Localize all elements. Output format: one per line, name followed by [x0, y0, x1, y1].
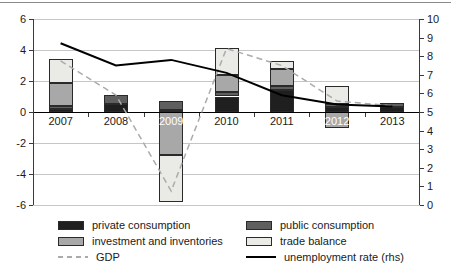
- left-axis-tick-label: -6: [0, 199, 26, 212]
- gridline: [33, 143, 420, 144]
- legend-label-public-consumption: public consumption: [280, 219, 374, 231]
- left-axis-tick-label: -4: [0, 168, 26, 181]
- x-tick-label: 2009: [154, 115, 188, 127]
- bar-segment-trade-balance: [215, 48, 239, 74]
- bar-segment-trade-balance: [159, 155, 183, 202]
- gridline: [33, 19, 420, 20]
- x-tick-label: 2007: [44, 115, 78, 127]
- bar-segment-trade-balance: [325, 86, 349, 105]
- legend-row: investment and inventories trade balance: [58, 233, 430, 249]
- bar-segment-private-consumption: [215, 97, 239, 113]
- right-axis-tick-mark: [420, 38, 424, 39]
- right-axis-tick-mark: [420, 205, 424, 206]
- right-axis-tick-mark: [420, 56, 424, 57]
- gdp-dashed-line-marker: [58, 256, 88, 258]
- bar-segment-public-consumption: [380, 103, 404, 108]
- right-axis-tick-label: 2: [427, 162, 451, 175]
- x-tick-label: 2011: [265, 115, 299, 127]
- right-axis-tick-mark: [420, 19, 424, 20]
- chart-figure: 2007200820092010201120122013 private con…: [0, 0, 451, 264]
- legend-label-trade-balance: trade balance: [280, 235, 347, 247]
- right-axis-tick-label: 8: [427, 50, 451, 63]
- legend-item-gdp: GDP: [58, 251, 246, 263]
- bar-segment-private-consumption: [104, 104, 128, 112]
- legend-label-private-consumption: private consumption: [92, 219, 190, 231]
- right-axis-tick-label: 7: [427, 69, 451, 82]
- investment-swatch: [58, 237, 84, 246]
- legend-label-unemployment: unemployment rate (rhs): [284, 251, 404, 263]
- legend-item-public-consumption: public consumption: [246, 219, 374, 231]
- legend-item-private-consumption: private consumption: [58, 219, 246, 231]
- bar-segment-public-consumption: [104, 95, 128, 104]
- right-axis-tick-label: 3: [427, 143, 451, 156]
- unemployment-line-marker: [246, 256, 276, 258]
- legend: private consumption public consumption i…: [58, 217, 430, 264]
- legend-item-trade-balance: trade balance: [246, 235, 347, 247]
- x-tick-label: 2008: [99, 115, 133, 127]
- x-tick-label: 2010: [210, 115, 244, 127]
- right-axis-tick-label: 4: [427, 125, 451, 138]
- right-axis-tick-label: 5: [427, 106, 451, 119]
- right-axis-tick-label: 1: [427, 180, 451, 193]
- private-consumption-swatch: [58, 221, 84, 230]
- right-axis-tick-label: 6: [427, 87, 451, 100]
- top-rule: [0, 2, 451, 3]
- gridline: [33, 174, 420, 175]
- legend-row: private consumption public consumption: [58, 217, 430, 233]
- right-axis-tick-label: 10: [427, 13, 451, 26]
- bar-segment-investment-and-inventories: [270, 69, 294, 86]
- bar-segment-public-consumption: [270, 86, 294, 91]
- left-axis-tick-label: 4: [0, 44, 26, 57]
- right-axis-tick-mark: [420, 75, 424, 76]
- bar-segment-public-consumption: [215, 92, 239, 97]
- x-tick-label: 2013: [375, 115, 409, 127]
- right-axis-tick-mark: [420, 93, 424, 94]
- trade-balance-swatch: [246, 237, 272, 246]
- bar-segment-public-consumption: [159, 101, 183, 110]
- right-axis-tick-mark: [420, 112, 424, 113]
- right-axis-tick-mark: [420, 168, 424, 169]
- right-axis-line: [419, 19, 420, 205]
- legend-label-investment: investment and inventories: [92, 235, 223, 247]
- bar-segment-investment-and-inventories: [49, 83, 73, 106]
- legend-item-investment: investment and inventories: [58, 235, 246, 247]
- left-axis-tick-label: -2: [0, 137, 26, 150]
- left-axis-tick-label: 2: [0, 75, 26, 88]
- left-axis-line: [33, 19, 34, 205]
- legend-item-unemployment: unemployment rate (rhs): [246, 251, 404, 263]
- right-axis-tick-mark: [420, 186, 424, 187]
- legend-row: GDP unemployment rate (rhs): [58, 249, 430, 264]
- right-axis-tick-mark: [420, 149, 424, 150]
- public-consumption-swatch: [246, 221, 272, 230]
- x-tick-label: 2012: [320, 115, 354, 127]
- legend-label-gdp: GDP: [96, 251, 120, 263]
- right-axis-tick-mark: [420, 131, 424, 132]
- left-axis-tick-label: 0: [0, 106, 26, 119]
- bar-segment-private-consumption: [270, 90, 294, 112]
- right-axis-tick-label: 0: [427, 199, 451, 212]
- bar-segment-trade-balance: [49, 59, 73, 82]
- zero-axis-line: [33, 112, 420, 113]
- bar-segment-trade-balance: [270, 61, 294, 69]
- gridline: [33, 205, 420, 206]
- plot-area: 2007200820092010201120122013: [33, 19, 420, 205]
- bar-segment-investment-and-inventories: [215, 75, 239, 92]
- bar-segment-public-consumption: [49, 106, 73, 109]
- left-axis-tick-label: 6: [0, 13, 26, 26]
- left-axis-tick-mark: [29, 205, 33, 206]
- right-axis-tick-label: 9: [427, 32, 451, 45]
- bar-segment-public-consumption: [325, 104, 349, 107]
